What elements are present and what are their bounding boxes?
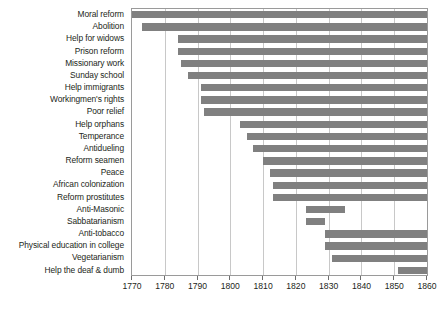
chart-bar	[273, 182, 427, 189]
bars-layer	[132, 9, 427, 275]
chart-bar-row	[132, 180, 427, 192]
x-axis-tick	[360, 276, 361, 280]
chart-bar	[332, 255, 427, 262]
chart-bar	[270, 169, 427, 176]
category-label: African colonization	[0, 178, 128, 190]
chart-bar	[306, 206, 345, 213]
chart-bar	[253, 145, 427, 152]
chart-bar-row	[132, 240, 427, 252]
category-label: Temperance	[0, 130, 128, 142]
x-axis-tick-label: 1860	[417, 281, 436, 291]
chart-bar	[398, 267, 428, 274]
x-axis-tick-label: 1770	[122, 281, 141, 291]
chart-bar-row	[132, 131, 427, 143]
x-axis-tick-label: 1780	[155, 281, 174, 291]
category-label: Antidueling	[0, 142, 128, 154]
chart-bar	[178, 35, 427, 42]
x-axis-tick-label: 1820	[286, 281, 305, 291]
chart-bar	[240, 121, 427, 128]
category-label: Vegetarianism	[0, 251, 128, 263]
chart-bar	[273, 194, 427, 201]
category-label: Sabbatarianism	[0, 215, 128, 227]
chart-bar-row	[132, 143, 427, 155]
x-axis-tick	[197, 276, 198, 280]
chart-bar	[142, 23, 427, 30]
x-axis-tick-label: 1790	[188, 281, 207, 291]
x-axis-tick	[164, 276, 165, 280]
x-axis-tick	[328, 276, 329, 280]
chart-bar	[201, 96, 427, 103]
chart-bar-row	[132, 70, 427, 82]
chart-bar-row	[132, 21, 427, 33]
chart-bar	[188, 72, 427, 79]
category-label: Moral reform	[0, 8, 128, 20]
x-axis-tick-label: 1830	[319, 281, 338, 291]
x-axis-tick-label: 1840	[352, 281, 371, 291]
chart-bar	[204, 108, 427, 115]
x-axis-tick-marks	[131, 276, 428, 280]
chart-bar	[247, 133, 427, 140]
chart-bar	[306, 218, 326, 225]
category-label: Workingmen's rights	[0, 93, 128, 105]
chart-bar-row	[132, 204, 427, 216]
chart-bar-row	[132, 216, 427, 228]
category-label: Help immigrants	[0, 81, 128, 93]
chart-bar	[325, 230, 427, 237]
category-label: Sunday school	[0, 69, 128, 81]
chart-bar	[201, 84, 427, 91]
x-axis-tick	[262, 276, 263, 280]
category-label: Help the deaf & dumb	[0, 264, 128, 276]
x-axis-tick	[393, 276, 394, 280]
x-axis-tick-label: 1850	[385, 281, 404, 291]
chart-bar-row	[132, 192, 427, 204]
category-label: Prison reform	[0, 45, 128, 57]
chart-bar-row	[132, 9, 427, 21]
x-axis-tick	[229, 276, 230, 280]
plot-area	[131, 8, 428, 276]
category-label: Help orphans	[0, 118, 128, 130]
chart-bar	[325, 242, 427, 249]
category-label: Abolition	[0, 20, 128, 32]
chart-bar-row	[132, 155, 427, 167]
chart-bar-row	[132, 119, 427, 131]
x-axis-tick	[131, 276, 132, 280]
chart-bar-row	[132, 33, 427, 45]
category-label: Poor relief	[0, 105, 128, 117]
x-axis-tick-label: 1810	[254, 281, 273, 291]
chart-bar	[181, 60, 427, 67]
category-label: Missionary work	[0, 57, 128, 69]
chart-bar	[178, 48, 427, 55]
category-label: Reform seamen	[0, 154, 128, 166]
chart-bar-row	[132, 228, 427, 240]
category-label: Peace	[0, 166, 128, 178]
category-label-column: Moral reformAbolitionHelp for widowsPris…	[0, 8, 128, 276]
chart-bar	[263, 157, 427, 164]
x-axis-tick-labels: 1770178017901800181018201830184018501860	[0, 281, 433, 295]
chart-bar-row	[132, 106, 427, 118]
chart-bar	[132, 11, 427, 18]
chart-bar-row	[132, 265, 427, 276]
chart-bar-row	[132, 46, 427, 58]
category-label: Anti-Masonic	[0, 203, 128, 215]
category-label: Physical education in college	[0, 239, 128, 251]
x-axis-tick	[295, 276, 296, 280]
chart-bar-row	[132, 58, 427, 70]
category-label: Anti-tobacco	[0, 227, 128, 239]
category-label: Reform prostitutes	[0, 191, 128, 203]
x-axis-tick	[426, 276, 427, 280]
x-axis-tick-label: 1800	[221, 281, 240, 291]
chart-bar-row	[132, 253, 427, 265]
chart-bar-row	[132, 167, 427, 179]
category-label: Help for widows	[0, 32, 128, 44]
chart-bar-row	[132, 82, 427, 94]
chart-bar-row	[132, 94, 427, 106]
